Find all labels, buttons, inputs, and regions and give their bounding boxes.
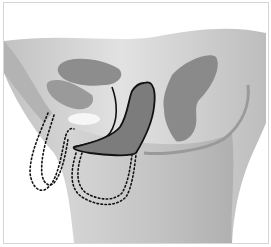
highlight	[68, 113, 100, 125]
anatomy-illustration	[4, 3, 268, 243]
illustration-frame	[3, 2, 269, 244]
